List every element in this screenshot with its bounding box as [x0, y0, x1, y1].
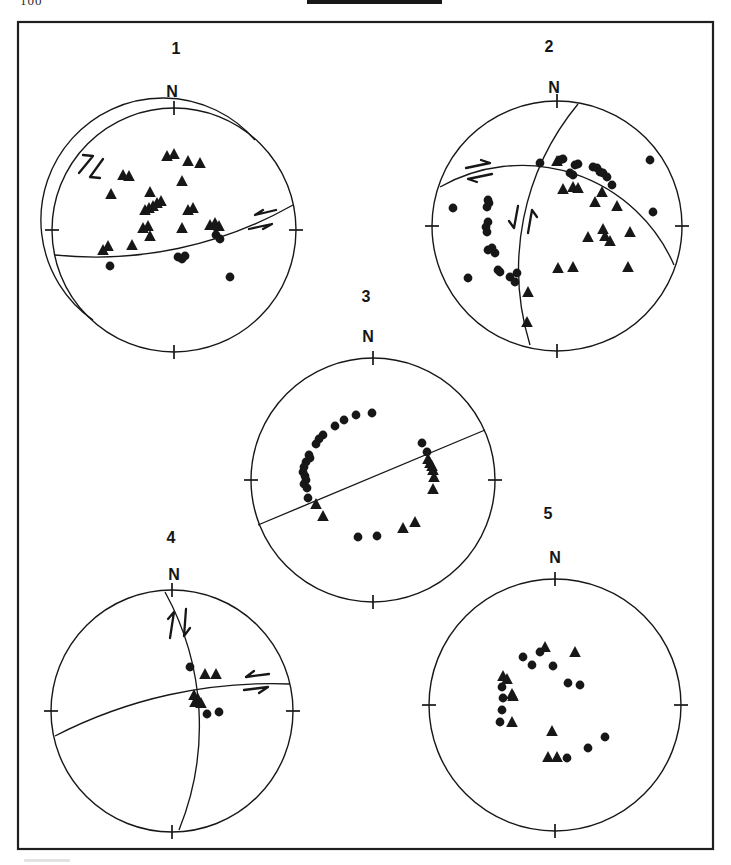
circle-marker	[603, 173, 612, 182]
circle-marker	[331, 422, 340, 431]
page-number: 100	[20, 0, 43, 8]
triangle-marker	[546, 725, 558, 736]
fault-plane-trace	[165, 592, 199, 830]
stereonet-1: 1N	[41, 40, 303, 359]
stereonet-5: 5N	[422, 505, 688, 838]
circle-marker	[303, 484, 312, 493]
triangle-marker	[506, 716, 518, 727]
triangle-marker	[522, 286, 534, 297]
north-label: N	[549, 549, 561, 566]
triangle-marker	[144, 186, 156, 197]
circle-marker	[312, 440, 321, 449]
circle-marker	[536, 648, 545, 657]
slip-arrow	[509, 206, 518, 228]
circle-marker	[304, 494, 313, 503]
stereonet-number-label: 1	[172, 40, 181, 57]
slip-arrow	[246, 671, 269, 677]
circle-marker	[563, 754, 572, 763]
triangle-marker	[611, 200, 623, 211]
stereonet-number-label: 2	[545, 38, 554, 55]
circle-marker	[584, 744, 593, 753]
circle-marker	[483, 228, 492, 237]
slip-arrow	[468, 174, 492, 182]
circle-marker	[186, 663, 195, 672]
slip-arrow	[255, 210, 276, 215]
figure-frame	[18, 22, 713, 849]
triangle-marker	[317, 510, 329, 521]
circle-marker	[549, 662, 558, 671]
circle-marker	[498, 706, 507, 715]
circle-marker	[513, 269, 522, 278]
slip-arrow	[90, 159, 103, 178]
stereonet-outline	[251, 358, 495, 602]
stereonet-outline	[429, 579, 681, 831]
triangle-marker	[397, 522, 409, 533]
fault-plane-trace	[258, 430, 485, 525]
north-label: N	[548, 79, 560, 96]
triangle-marker	[622, 261, 634, 272]
stereonet-4: 4N	[44, 529, 300, 839]
triangle-marker	[210, 668, 222, 679]
circle-marker	[601, 733, 610, 742]
figure-content: 1N2N3N4N5N	[18, 0, 713, 862]
slip-arrow	[79, 155, 93, 173]
triangle-marker	[597, 223, 609, 234]
circle-marker	[496, 718, 505, 727]
fault-plane-trace	[519, 104, 578, 345]
triangle-marker	[551, 751, 563, 762]
circle-marker	[499, 694, 508, 703]
slip-arrow	[244, 687, 268, 693]
circle-marker	[608, 181, 617, 190]
circle-marker	[491, 249, 500, 258]
triangle-marker	[126, 239, 138, 250]
circle-marker	[483, 203, 492, 212]
triangle-marker	[552, 262, 564, 273]
triangle-marker	[582, 231, 594, 242]
triangle-marker	[427, 483, 439, 494]
circle-marker	[226, 273, 235, 282]
stereonet-figure-page: 100 1N2N3N4N5N	[0, 0, 731, 865]
circle-marker	[576, 681, 585, 690]
circle-marker	[373, 532, 382, 541]
circle-marker	[519, 653, 528, 662]
slip-arrow	[466, 160, 490, 168]
stereonet-number-label: 3	[362, 288, 371, 305]
triangle-marker	[569, 646, 581, 657]
triangle-marker	[194, 157, 206, 168]
circle-marker	[418, 439, 427, 448]
slip-arrow	[528, 210, 537, 233]
triangle-marker	[168, 148, 180, 159]
circle-marker	[574, 160, 583, 169]
slip-arrow	[168, 612, 174, 638]
circle-marker	[352, 411, 361, 420]
circle-marker	[106, 262, 115, 271]
caption-smudge	[24, 859, 70, 862]
triangle-marker	[557, 183, 569, 194]
circle-marker	[464, 274, 473, 283]
triangle-marker	[102, 240, 114, 251]
circle-marker	[423, 448, 432, 457]
circle-marker	[215, 708, 224, 717]
triangle-marker	[624, 226, 636, 237]
triangle-marker	[199, 668, 211, 679]
triangle-marker	[176, 175, 188, 186]
circle-marker	[564, 679, 573, 688]
slip-arrow	[184, 609, 190, 636]
triangle-marker	[567, 261, 579, 272]
circle-marker	[536, 159, 545, 168]
circle-marker	[449, 204, 458, 213]
triangle-marker	[409, 516, 421, 527]
triangle-marker	[105, 188, 117, 199]
circle-marker	[340, 416, 349, 425]
circle-marker	[511, 278, 520, 287]
circle-marker	[646, 156, 655, 165]
triangle-marker	[542, 751, 554, 762]
circle-marker	[528, 661, 537, 670]
circle-marker	[354, 533, 363, 542]
triangle-marker	[176, 222, 188, 233]
triangle-marker	[589, 196, 601, 207]
circle-marker	[496, 268, 505, 277]
stereonet-3: 3N	[244, 288, 502, 609]
stereonet-number-label: 5	[544, 505, 553, 522]
circle-marker	[649, 208, 658, 217]
